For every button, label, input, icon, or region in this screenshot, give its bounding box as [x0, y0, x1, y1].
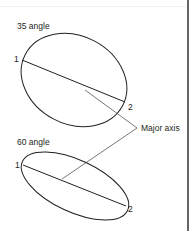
panel-2-point-2: 2	[128, 204, 133, 214]
ellipse-60	[11, 138, 138, 231]
panel-1-title: 35 angle	[17, 21, 50, 31]
major-axis-60	[23, 165, 126, 206]
panel-2-title: 60 angle	[17, 137, 50, 147]
leader-line-60	[62, 128, 137, 179]
ellipse-35	[5, 15, 143, 144]
panel-2-point-1: 1	[15, 160, 20, 170]
major-axis-callout: Major axis	[141, 123, 180, 133]
panel-1-point-1: 1	[14, 54, 19, 64]
ellipse-diagram: 35 angle 1 2 Major axis 60 angle 1 2	[0, 0, 191, 231]
major-axis-35	[22, 60, 125, 102]
panel-1-point-2: 2	[128, 102, 133, 112]
